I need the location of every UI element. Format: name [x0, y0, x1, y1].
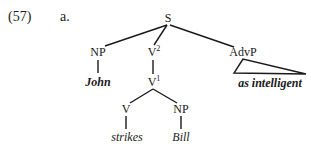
node-np-object-label: NP — [173, 102, 188, 116]
node-v: V — [122, 103, 131, 115]
node-np-subject: NP — [90, 46, 105, 58]
node-v-label: V — [122, 102, 131, 116]
branch-s-advp — [170, 25, 234, 47]
node-advp-label: AdvP — [229, 45, 256, 59]
example-sub-label: a. — [60, 10, 70, 24]
node-v2-label: V — [148, 45, 157, 59]
leaf-john: John — [85, 76, 110, 88]
node-v2: V2 — [148, 46, 161, 58]
node-v1: V1 — [148, 76, 161, 88]
example-number: (57) — [8, 10, 31, 24]
node-np-object: NP — [173, 103, 188, 115]
branch-v1-np — [153, 89, 177, 103]
leaf-strikes: strikes — [111, 131, 142, 143]
advp-triangle — [234, 59, 306, 74]
node-s-label: S — [165, 11, 172, 25]
branch-s-np — [105, 25, 167, 46]
node-v1-label: V — [148, 75, 157, 89]
node-v1-bar-level: 1 — [156, 74, 160, 83]
node-v2-bar-level: 2 — [156, 44, 160, 53]
node-np-subject-label: NP — [90, 45, 105, 59]
node-advp: AdvP — [229, 46, 256, 58]
branch-v1-v — [130, 89, 153, 103]
branch-s-v2 — [154, 25, 167, 45]
node-s: S — [165, 12, 172, 24]
leaf-as-intelligent: as intelligent — [238, 77, 302, 89]
leaf-bill: Bill — [172, 131, 189, 143]
